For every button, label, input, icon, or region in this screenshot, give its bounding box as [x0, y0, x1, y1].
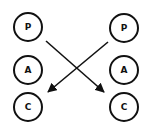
node-left-a: A	[14, 56, 42, 84]
node-label: P	[25, 22, 32, 32]
node-right-c: C	[110, 93, 138, 121]
node-right-a: A	[110, 56, 138, 84]
node-label: A	[121, 65, 128, 75]
node-label: P	[121, 23, 128, 33]
node-left-p: P	[14, 13, 42, 41]
node-left-c: C	[14, 93, 42, 121]
edge-left-p-to-right-c	[46, 41, 104, 92]
edge-right-p-to-left-c	[48, 42, 108, 92]
node-label: A	[25, 65, 32, 75]
diagram-canvas: P A C P A C	[0, 0, 152, 128]
node-label: C	[25, 102, 32, 112]
node-right-p: P	[110, 14, 138, 42]
node-label: C	[121, 102, 128, 112]
